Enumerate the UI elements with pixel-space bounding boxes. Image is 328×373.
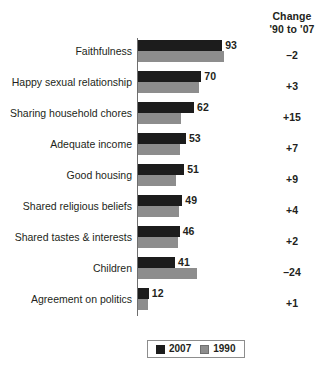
bar-1990 bbox=[138, 206, 179, 217]
change-value: +15 bbox=[258, 111, 326, 123]
bar-value-label: 70 bbox=[204, 69, 216, 83]
bar-2007 bbox=[138, 133, 186, 144]
change-value: +3 bbox=[258, 80, 326, 92]
chart-row: Agreement on politics12+1 bbox=[0, 286, 328, 317]
bar-value-label: 51 bbox=[187, 162, 199, 176]
chart-row: Faithfulness93–2 bbox=[0, 38, 328, 69]
bar-2007 bbox=[138, 195, 182, 206]
bar-2007 bbox=[138, 164, 184, 175]
bar-value-label: 12 bbox=[152, 286, 164, 300]
bar-2007 bbox=[138, 257, 175, 268]
change-value: +2 bbox=[258, 235, 326, 247]
category-label: Faithfulness bbox=[7, 45, 132, 58]
bar-2007 bbox=[138, 102, 194, 113]
bar-1990 bbox=[138, 175, 176, 186]
legend-label-1990: 1990 bbox=[213, 344, 235, 354]
category-label: Happy sexual relationship bbox=[7, 76, 132, 89]
bar-value-label: 41 bbox=[178, 255, 190, 269]
change-value: +1 bbox=[258, 297, 326, 309]
chart-row: Shared tastes & interests46+2 bbox=[0, 224, 328, 255]
legend-label-2007: 2007 bbox=[169, 344, 191, 354]
bar-1990 bbox=[138, 51, 224, 62]
chart-row: Sharing household chores62+15 bbox=[0, 100, 328, 131]
bar-value-label: 53 bbox=[189, 131, 201, 145]
chart-row: Good housing51+9 bbox=[0, 162, 328, 193]
category-label: Good housing bbox=[7, 169, 132, 182]
legend-item-1990: 1990 bbox=[200, 344, 235, 354]
category-label: Agreement on politics bbox=[7, 293, 132, 306]
change-value: +4 bbox=[258, 204, 326, 216]
bar-1990 bbox=[138, 237, 178, 248]
bar-1990 bbox=[138, 82, 199, 93]
change-value: –24 bbox=[258, 266, 326, 278]
chart-legend: 2007 1990 bbox=[147, 340, 245, 358]
bar-2007 bbox=[138, 40, 222, 51]
bar-1990 bbox=[138, 299, 148, 310]
plot-area: Faithfulness93–2Happy sexual relationshi… bbox=[0, 0, 328, 340]
category-label: Shared religious beliefs bbox=[7, 200, 132, 213]
category-label: Shared tastes & interests bbox=[7, 231, 132, 244]
bar-2007 bbox=[138, 226, 180, 237]
legend-item-2007: 2007 bbox=[156, 344, 191, 354]
change-value: +9 bbox=[258, 173, 326, 185]
chart-row: Children41–24 bbox=[0, 255, 328, 286]
category-label: Sharing household chores bbox=[7, 107, 132, 120]
bar-1990 bbox=[138, 113, 181, 124]
chart-row: Shared religious beliefs49+4 bbox=[0, 193, 328, 224]
chart-container: Change '90 to '07 Faithfulness93–2Happy … bbox=[0, 0, 328, 373]
bar-value-label: 62 bbox=[197, 100, 209, 114]
change-value: +7 bbox=[258, 142, 326, 154]
bar-value-label: 49 bbox=[185, 193, 197, 207]
bar-value-label: 93 bbox=[225, 38, 237, 52]
bar-1990 bbox=[138, 268, 197, 279]
category-label: Children bbox=[7, 262, 132, 275]
bar-value-label: 46 bbox=[183, 224, 195, 238]
category-label: Adequate income bbox=[7, 138, 132, 151]
bar-2007 bbox=[138, 71, 201, 82]
bar-1990 bbox=[138, 144, 180, 155]
bar-2007 bbox=[138, 288, 149, 299]
change-value: –2 bbox=[258, 49, 326, 61]
chart-row: Happy sexual relationship70+3 bbox=[0, 69, 328, 100]
legend-swatch-icon-1990 bbox=[200, 345, 209, 354]
legend-swatch-icon-2007 bbox=[156, 345, 165, 354]
chart-row: Adequate income53+7 bbox=[0, 131, 328, 162]
